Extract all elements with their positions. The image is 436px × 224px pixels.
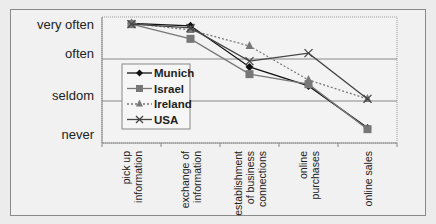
svg-text:exchange of: exchange of [179,151,191,208]
svg-text:purchases: purchases [309,151,321,199]
svg-text:information: information [132,151,144,203]
line-chart: very oftenoftenseldomneverpick upinforma… [0,0,436,224]
square-marker-icon [246,70,254,78]
square-marker-icon [187,35,195,43]
svg-text:online sales: online sales [362,151,374,206]
svg-text:online: online [297,151,309,179]
square-marker-icon [364,125,372,133]
y-tick-label: seldom [52,88,94,103]
x-tick-label: exchange ofinformation [179,151,203,208]
x-tick-label: onlinepurchases [297,151,321,200]
legend-label: Israel [154,83,184,95]
legend-label: Munich [154,67,194,79]
y-tick-label: never [61,127,94,142]
svg-text:establishment: establishment [232,151,244,216]
svg-text:connections: connections [256,151,268,207]
square-marker-icon [136,85,143,92]
svg-text:information: information [191,151,203,203]
svg-text:pick up: pick up [120,151,132,184]
legend-label: Ireland [154,98,192,110]
legend-label: USA [154,114,178,126]
y-tick-label: very often [37,17,94,32]
x-tick-label: establishmentof businessconnections [232,151,268,216]
legend: MunichIsraelIrelandUSA [122,64,194,129]
x-tick-label: online sales [362,151,374,206]
svg-text:of business: of business [244,151,256,204]
y-tick-label: often [65,46,94,61]
x-tick-label: pick upinformation [120,151,144,203]
